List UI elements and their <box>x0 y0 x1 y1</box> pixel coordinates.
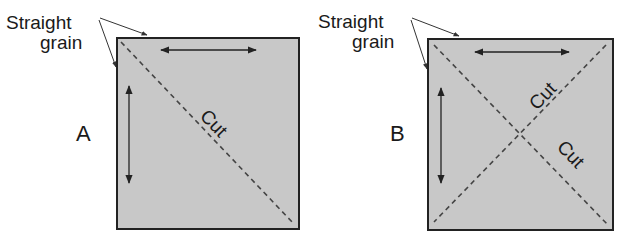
straight-grain-label-line2: grain <box>40 32 82 53</box>
pointer-arrow-top-icon <box>100 18 147 35</box>
straight-grain-label-line1: Straight <box>318 11 384 32</box>
straight-grain-label-line2: grain <box>352 31 394 52</box>
pointer-arrow-left-icon <box>99 20 116 67</box>
panel-label-a: A <box>76 121 91 146</box>
panel-b: Straight grain Cut Cut B <box>318 11 613 230</box>
pointer-arrow-left-icon <box>411 20 427 69</box>
straight-grain-label-line1: Straight <box>6 12 72 33</box>
panel-label-b: B <box>390 121 405 146</box>
panel-a: Straight grain Cut A <box>6 12 299 229</box>
quilt-square-diagram: Straight grain Cut A Straight grain Cut … <box>0 0 617 251</box>
pointer-arrow-top-icon <box>412 18 459 36</box>
